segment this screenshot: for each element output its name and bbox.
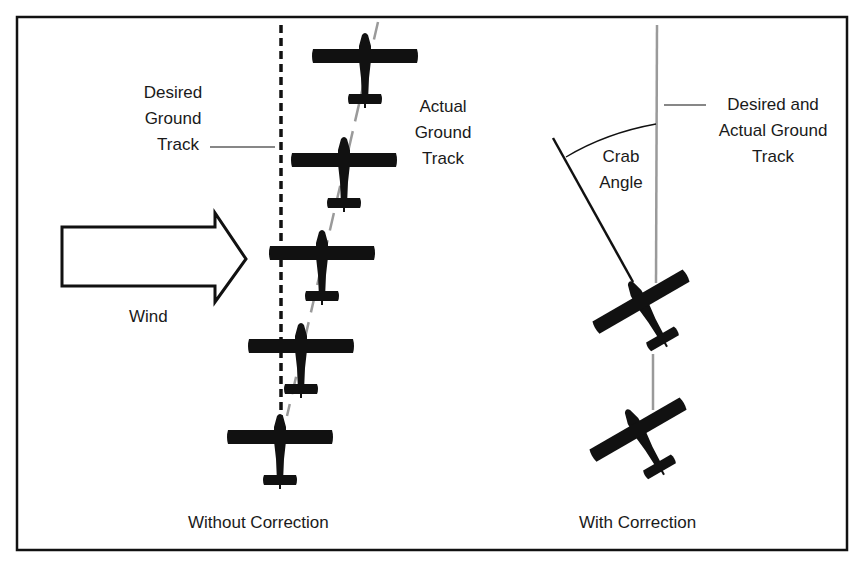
label-line: Crab: [588, 144, 654, 170]
airplane-icon: [584, 255, 713, 373]
label-line: Desired and: [698, 92, 848, 118]
airplane-icon: [269, 230, 375, 305]
label-line: Track: [698, 144, 848, 170]
label-line: Ground: [398, 120, 488, 146]
desired-actual-track-label: Desired and Actual Ground Track: [698, 92, 848, 170]
desired-track-label: Desired Ground Track: [128, 80, 218, 158]
label-line: Angle: [588, 170, 654, 196]
caption-with-correction: With Correction: [579, 510, 696, 536]
wind-arrow-icon: [62, 213, 246, 302]
label-line: Desired: [128, 80, 218, 106]
label-line: Ground: [128, 106, 218, 132]
label-line: Track: [398, 146, 488, 172]
caption-without-correction: Without Correction: [188, 510, 329, 536]
airplane-icon: [581, 383, 710, 501]
actual-track-label: Actual Ground Track: [398, 94, 488, 172]
corrected-track-line: [656, 25, 657, 283]
label-line: Track: [128, 132, 218, 158]
wind-label: Wind: [129, 304, 168, 330]
airplane-icon: [291, 137, 397, 212]
label-line: Actual: [398, 94, 488, 120]
crab-angle-label: Crab Angle: [588, 144, 654, 196]
airplane-icon: [227, 414, 333, 489]
airplane-icon: [248, 323, 354, 398]
label-line: Actual Ground: [698, 118, 848, 144]
